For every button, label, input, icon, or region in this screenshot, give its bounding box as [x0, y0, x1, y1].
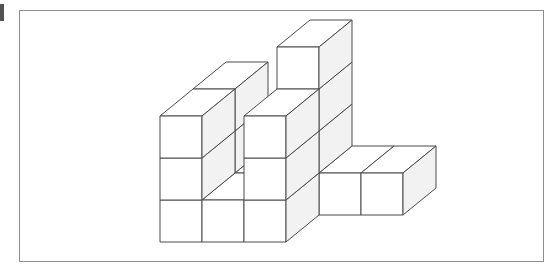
cube-front-face: [160, 116, 202, 158]
cube-front-face: [277, 47, 319, 89]
cube-front-face: [244, 116, 286, 158]
isometric-cube-stack-figure: [0, 0, 559, 280]
cube-front-face: [361, 173, 403, 215]
cube-front-face: [202, 200, 244, 242]
cube-front-face: [319, 173, 361, 215]
cube-front-face: [160, 158, 202, 200]
cube-front-face: [160, 200, 202, 242]
cube-front-face: [244, 158, 286, 200]
cube-front-face: [244, 200, 286, 242]
figure-stage: [0, 0, 559, 280]
